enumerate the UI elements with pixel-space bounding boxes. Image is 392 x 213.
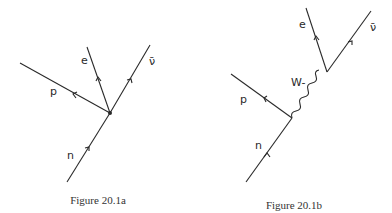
caption-20-1a: Figure 20.1a bbox=[70, 194, 126, 206]
neutron-arrow-icon bbox=[264, 153, 270, 157]
label-proton: p bbox=[50, 85, 57, 98]
label-w-boson: W- bbox=[291, 76, 305, 89]
proton-line bbox=[20, 63, 110, 113]
caption-20-1b: Figure 20.1b bbox=[266, 199, 323, 211]
label-antineutrino: ν̄ bbox=[149, 55, 155, 68]
label-neutron: n bbox=[255, 139, 262, 152]
neutron-line bbox=[246, 118, 292, 182]
antineutrino-arrow-icon bbox=[348, 41, 352, 45]
figure-20-1b: e ν̄ W- p n Figure 20.1b bbox=[231, 8, 376, 211]
vertex-dot bbox=[108, 111, 112, 115]
label-proton: p bbox=[240, 93, 247, 106]
label-antineutrino: ν̄ bbox=[370, 21, 376, 34]
electron-line bbox=[87, 47, 110, 113]
label-electron: e bbox=[299, 18, 306, 31]
figure-20-1a: e ν̄ p n Figure 20.1a bbox=[20, 45, 155, 206]
label-neutron: n bbox=[67, 149, 74, 162]
feynman-diagrams: e ν̄ p n Figure 20.1a e ν̄ W- p n Figure… bbox=[0, 0, 392, 213]
label-electron: e bbox=[81, 54, 88, 67]
electron-line bbox=[306, 8, 327, 72]
